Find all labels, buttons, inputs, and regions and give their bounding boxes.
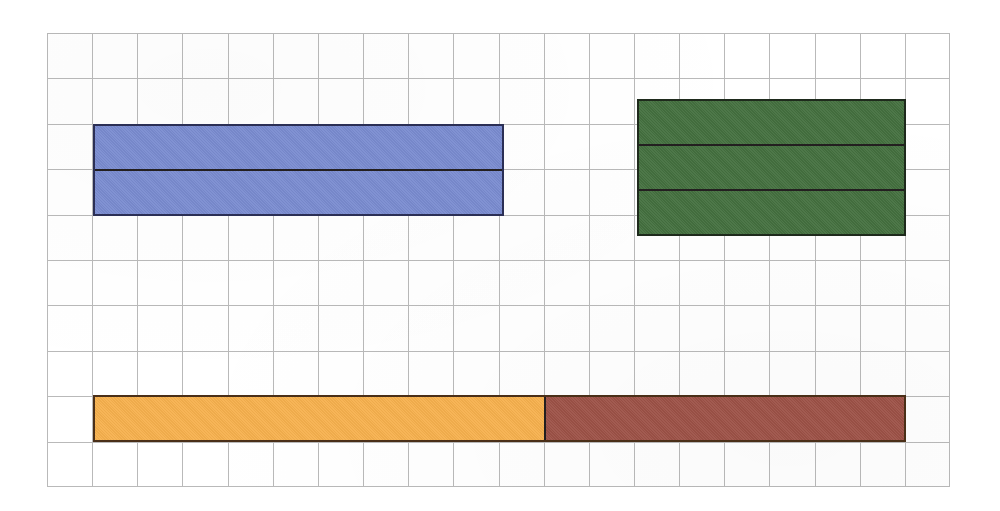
green-row-2[interactable] bbox=[639, 144, 904, 189]
orange-part[interactable] bbox=[95, 397, 544, 440]
green-rectangle[interactable] bbox=[637, 99, 906, 236]
fraction-bar[interactable] bbox=[93, 395, 906, 442]
blue-rectangle[interactable] bbox=[93, 124, 504, 216]
blue-row-1[interactable] bbox=[95, 126, 502, 169]
brown-part[interactable] bbox=[544, 397, 904, 440]
diagram-canvas bbox=[0, 0, 1000, 511]
green-row-3[interactable] bbox=[639, 189, 904, 234]
green-row-1[interactable] bbox=[639, 101, 904, 144]
blue-row-2[interactable] bbox=[95, 169, 502, 214]
